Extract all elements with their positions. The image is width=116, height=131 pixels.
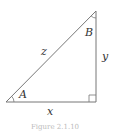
label-y: y xyxy=(101,50,109,63)
angle-b-arc xyxy=(91,16,96,18)
label-a: A xyxy=(18,88,27,101)
figure-caption: Figure 2.1.10 xyxy=(31,123,79,131)
label-b: B xyxy=(84,26,93,39)
right-angle-marker xyxy=(89,95,96,102)
label-z: z xyxy=(40,45,47,58)
label-x: x xyxy=(47,105,54,118)
triangle-diagram: z B y A x Figure 2.1.10 xyxy=(0,0,116,131)
angle-a-arc xyxy=(12,96,14,102)
